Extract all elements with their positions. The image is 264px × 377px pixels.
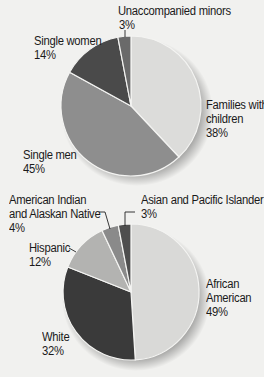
label-text: White <box>42 330 69 344</box>
label-value: 4% <box>9 221 100 235</box>
label-hispanic: Hispanic 12% <box>29 241 70 269</box>
label-asian-pacific-islander: Asian and Pacific Islander 3% <box>141 193 263 221</box>
label-unaccompanied-minors: Unaccompanied minors 3% <box>118 4 231 32</box>
label-text: American <box>206 291 251 305</box>
label-value: 45% <box>23 162 77 176</box>
label-text: American Indian <box>9 193 100 207</box>
label-text: Unaccompanied minors <box>118 4 231 18</box>
label-text: Single men <box>23 148 77 162</box>
label-african-american: African American 49% <box>206 277 251 319</box>
label-text: Single women <box>34 34 101 48</box>
pie-chart-ethnicity <box>62 224 210 371</box>
label-american-indian: American Indian and Alaskan Native 4% <box>9 193 100 235</box>
label-single-women: Single women 14% <box>34 34 101 62</box>
label-text: Hispanic <box>29 241 70 255</box>
label-value: 49% <box>206 305 251 319</box>
label-value: 12% <box>29 255 70 269</box>
label-single-men: Single men 45% <box>23 148 77 176</box>
label-value: 38% <box>206 126 264 140</box>
label-white: White 32% <box>42 330 69 358</box>
label-value: 3% <box>141 207 263 221</box>
label-value: 32% <box>42 344 69 358</box>
label-text: African <box>206 277 251 291</box>
label-text: and Alaskan Native <box>9 207 100 221</box>
label-text: Asian and Pacific Islander <box>141 193 263 207</box>
label-value: 3% <box>118 18 231 32</box>
label-text: children <box>206 112 264 126</box>
label-value: 14% <box>34 48 101 62</box>
label-families-with-children: Families with children 38% <box>206 98 264 140</box>
label-text: Families with <box>206 98 264 112</box>
